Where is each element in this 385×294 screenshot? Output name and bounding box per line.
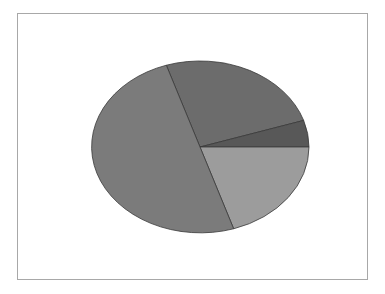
pie-chart (0, 0, 385, 294)
